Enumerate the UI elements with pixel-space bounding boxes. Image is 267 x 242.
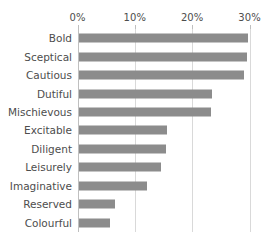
bar — [79, 144, 167, 153]
bar-chart: 0%10%20%30% BoldScepticalCautiousDutiful… — [0, 0, 267, 242]
bar-row: Mischievous — [0, 103, 267, 121]
bar-row: Bold — [0, 29, 267, 47]
category-label: Reserved — [23, 198, 72, 210]
bar — [79, 218, 111, 227]
category-label: Excitable — [24, 124, 72, 136]
x-tick-label: 20% — [181, 12, 204, 24]
category-label: Bold — [49, 32, 72, 44]
category-label: Imaginative — [10, 180, 72, 192]
x-tick-label: 10% — [124, 12, 147, 24]
bar-row: Imaginative — [0, 177, 267, 195]
x-tick-label: 30% — [238, 12, 261, 24]
bar — [79, 34, 248, 43]
bar — [79, 108, 211, 117]
bar — [79, 163, 162, 172]
x-tick-label: 0% — [69, 12, 85, 24]
category-label: Dutiful — [37, 88, 72, 100]
bar-row: Reserved — [0, 195, 267, 213]
category-label: Leisurely — [25, 161, 72, 173]
bar — [79, 200, 116, 209]
bar — [79, 181, 147, 190]
bar-row: Excitable — [0, 121, 267, 139]
bar-rows: BoldScepticalCautiousDutifulMischievousE… — [0, 29, 267, 232]
x-axis-tick-labels: 0%10%20%30% — [0, 12, 267, 26]
category-label: Diligent — [31, 143, 72, 155]
bar-row: Diligent — [0, 140, 267, 158]
category-label: Cautious — [26, 69, 72, 81]
bar-row: Colourful — [0, 214, 267, 232]
bar-row: Cautious — [0, 66, 267, 84]
bar — [79, 89, 212, 98]
bar-row: Leisurely — [0, 158, 267, 176]
bar — [79, 71, 245, 80]
category-label: Colourful — [25, 217, 72, 229]
bar — [79, 52, 248, 61]
bar-row: Sceptical — [0, 47, 267, 65]
bar-row: Dutiful — [0, 84, 267, 102]
category-label: Sceptical — [24, 51, 72, 63]
category-label: Mischievous — [8, 106, 72, 118]
bar — [79, 126, 167, 135]
